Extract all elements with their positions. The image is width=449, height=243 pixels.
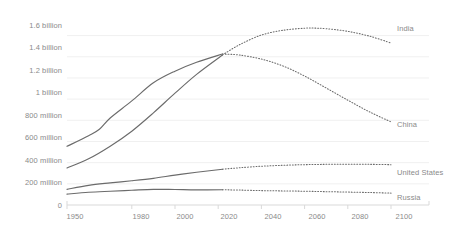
y-axis-tick-label: 600 million bbox=[25, 133, 62, 142]
series-paths-group bbox=[67, 28, 391, 194]
x-axis-tick-label: 1980 bbox=[121, 212, 161, 222]
x-axis-tick-label: 2100 bbox=[384, 212, 424, 222]
series-line-projection-india bbox=[223, 28, 391, 55]
y-axis-tick-label: 800 million bbox=[25, 111, 62, 120]
series-label-india: India bbox=[397, 24, 414, 33]
y-axis-tick-0: 1.6 billion bbox=[0, 21, 62, 30]
series-line-projection-china bbox=[223, 54, 391, 122]
y-axis-tick-label: 0 bbox=[58, 201, 62, 210]
y-axis-tick-7: 200 million bbox=[0, 178, 62, 187]
series-line-projection-united-states bbox=[223, 164, 391, 169]
x-axis-tick-label: 2060 bbox=[297, 212, 337, 222]
series-label-russia: Russia bbox=[397, 193, 421, 202]
y-axis-tick-label: 200 million bbox=[25, 178, 62, 187]
series-line-historical-india bbox=[67, 55, 223, 168]
y-axis-tick-8: 0 bbox=[0, 201, 62, 210]
x-axis-tick-label: 2020 bbox=[209, 212, 249, 222]
population-projection-line-chart: 1.6 billion1.4 billion1.2 billion1 billi… bbox=[0, 0, 449, 243]
x-axis-tick-2: 2000 bbox=[165, 212, 205, 222]
y-axis-tick-2: 1.2 billion bbox=[0, 66, 62, 75]
x-axis-tick-label: 1950 bbox=[55, 212, 95, 222]
y-axis-tick-3: 1 billion bbox=[0, 88, 62, 97]
x-axis-tick-3: 2020 bbox=[209, 212, 249, 222]
x-axis-tick-label: 2000 bbox=[165, 212, 205, 222]
x-axis-tick-label: 2080 bbox=[340, 212, 380, 222]
series-line-historical-united-states bbox=[67, 169, 223, 189]
x-axis-tick-7: 2100 bbox=[384, 212, 424, 222]
series-line-projection-russia bbox=[223, 190, 391, 193]
y-axis-tick-4: 800 million bbox=[0, 111, 62, 120]
chart-plot-area bbox=[0, 0, 449, 243]
x-axis-tick-label: 2040 bbox=[253, 212, 293, 222]
series-label-united-states: United States bbox=[397, 168, 443, 177]
y-axis-tick-label: 400 million bbox=[25, 156, 62, 165]
y-axis-tick-label: 1 billion bbox=[36, 88, 62, 97]
x-axis-tick-5: 2060 bbox=[297, 212, 337, 222]
series-line-historical-china bbox=[67, 54, 223, 146]
series-line-historical-russia bbox=[67, 189, 223, 194]
y-axis-tick-label: 1.4 billion bbox=[29, 43, 62, 52]
y-axis-tick-1: 1.4 billion bbox=[0, 43, 62, 52]
y-axis-tick-label: 1.6 billion bbox=[29, 21, 62, 30]
y-axis-tick-5: 600 million bbox=[0, 133, 62, 142]
series-label-china: China bbox=[397, 120, 417, 129]
x-axis-tick-1: 1980 bbox=[121, 212, 161, 222]
y-axis-tick-6: 400 million bbox=[0, 156, 62, 165]
x-axis-tick-6: 2080 bbox=[340, 212, 380, 222]
y-axis-tick-label: 1.2 billion bbox=[29, 66, 62, 75]
x-axis-tick-4: 2040 bbox=[253, 212, 293, 222]
x-axis-tick-0: 1950 bbox=[55, 212, 95, 222]
